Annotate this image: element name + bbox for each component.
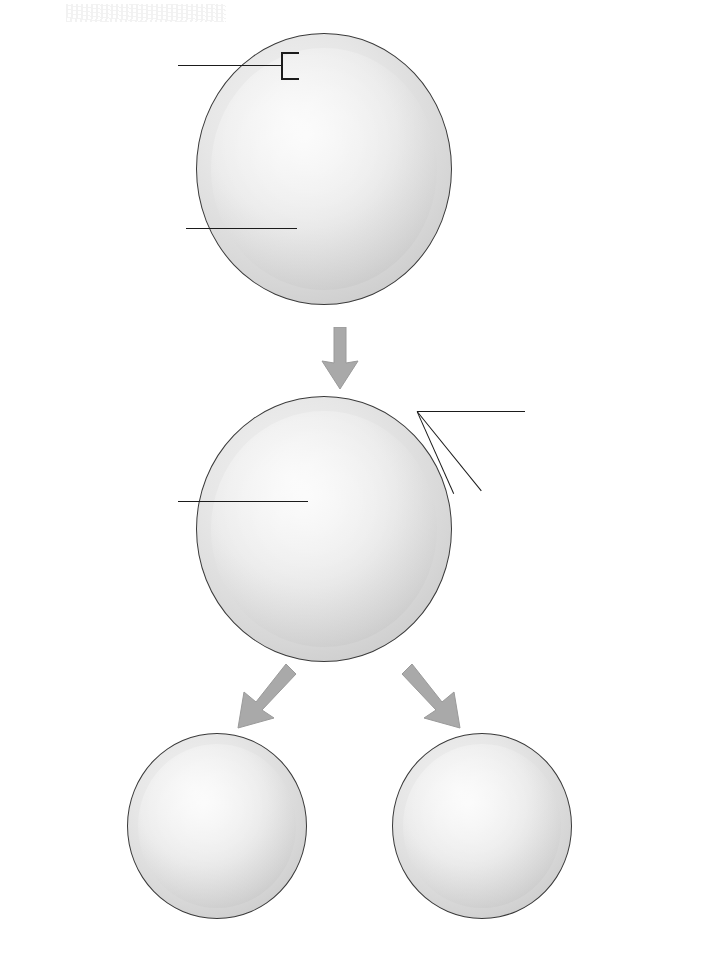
cell-interphase-after-replication: [196, 396, 452, 662]
leader-centrioles: [178, 65, 281, 66]
leader-chromosome: [186, 228, 297, 229]
cell-daughter-right: [392, 733, 572, 919]
arrow-mitosis-right: [398, 662, 470, 740]
cytoplasm: [211, 48, 437, 290]
leader-centromere: [178, 501, 308, 502]
cytoplasm: [211, 411, 437, 647]
cell-daughter-left: [127, 733, 307, 919]
scan-artifact: [66, 4, 226, 22]
arrow-dna-replication: [320, 327, 360, 389]
cell-interphase-before-replication: [196, 33, 452, 305]
figure-canvas: [0, 0, 712, 973]
leader-sister-chromatids: [417, 411, 525, 412]
cytoplasm: [403, 744, 561, 908]
cytoplasm: [138, 744, 296, 908]
arrow-mitosis-left: [228, 662, 300, 740]
centriole-bracket: [281, 52, 299, 80]
